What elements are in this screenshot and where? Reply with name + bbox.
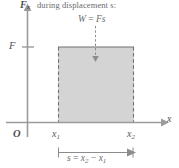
origin-label: O: [13, 129, 21, 140]
displacement-term2-subscript: 1: [103, 157, 107, 165]
displacement-s: s: [67, 153, 71, 163]
y-axis-label: Fx: [20, 0, 30, 11]
displacement-equation-label: s = x2 − x1: [67, 154, 106, 165]
work-equation-rhs: Fs: [96, 14, 106, 24]
x1-label: x1: [52, 129, 60, 141]
x2-label-subscript: 2: [131, 133, 135, 141]
force-tick-label: F: [9, 41, 15, 52]
work-constant-force-diagram: Fx during displacement s: W = Fs F O x1 …: [0, 0, 179, 168]
displacement-term1-subscript: 2: [85, 157, 89, 165]
y-axis-label-name: F: [20, 0, 27, 10]
x2-label: x2: [127, 129, 135, 141]
x1-label-subscript: 1: [56, 133, 60, 141]
y-axis-label-subscript: x: [27, 3, 31, 11]
diagram-canvas: [0, 0, 179, 168]
displacement-arrowhead: [127, 149, 136, 157]
work-equation-label: W = Fs: [78, 15, 106, 25]
work-equation-lhs: W: [78, 14, 86, 24]
displacement-minus: −: [91, 153, 96, 163]
figure-caption: during displacement s:: [37, 1, 116, 10]
x-axis-label: x: [167, 114, 171, 124]
work-equation-operator: =: [88, 14, 93, 24]
displacement-equals: =: [73, 153, 78, 163]
